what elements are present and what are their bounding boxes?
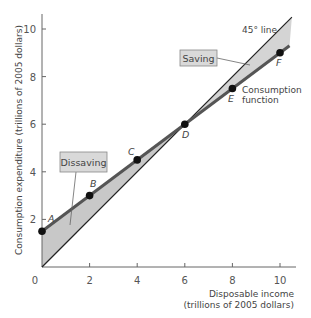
x-tick-label: 6 xyxy=(182,275,188,286)
point-e xyxy=(229,85,237,93)
line-45-degree xyxy=(42,17,292,267)
point-label-f: F xyxy=(276,57,282,68)
consumption-function-chart: 0 2 4 6 8 10 2 4 6 8 10 Consumption expe… xyxy=(0,0,311,318)
consumption-function-line xyxy=(42,46,290,232)
y-tick-label: 4 xyxy=(30,167,36,178)
point-label-a: A xyxy=(47,213,55,224)
consumption-function-label-2: function xyxy=(242,95,279,105)
point-a xyxy=(38,228,46,236)
x-tick-label: 4 xyxy=(134,275,140,286)
y-tick-label: 6 xyxy=(30,119,36,130)
x-ticks xyxy=(90,263,280,267)
point-d xyxy=(181,120,189,128)
saving-box-label: Saving xyxy=(182,53,214,64)
consumption-function-label-1: Consumption xyxy=(242,85,302,95)
x-tick-label: 8 xyxy=(229,275,235,286)
point-label-e: E xyxy=(228,93,234,104)
point-label-b: B xyxy=(90,178,97,189)
y-tick-label: 2 xyxy=(30,214,36,225)
y-ticks xyxy=(42,29,46,219)
line-45-label: 45° line xyxy=(242,25,278,35)
x-tick-label: 0 xyxy=(32,275,38,286)
point-f xyxy=(276,49,284,57)
point-label-d: D xyxy=(182,129,189,140)
point-c xyxy=(133,156,141,164)
x-tick-label: 2 xyxy=(86,275,92,286)
x-axis-title-line2: (trillions of 2005 dollars) xyxy=(184,300,294,310)
saving-pointer xyxy=(217,58,250,65)
point-b xyxy=(86,192,94,200)
x-axis-title-line1: Disposable income xyxy=(209,289,295,299)
point-label-c: C xyxy=(128,146,135,157)
x-tick-label: 10 xyxy=(274,275,287,286)
y-axis-title: Consumption expenditure (trillions of 20… xyxy=(14,25,24,255)
y-tick-label: 10 xyxy=(23,24,36,35)
y-tick-label: 8 xyxy=(30,72,36,83)
dissaving-box-label: Dissaving xyxy=(61,157,107,168)
